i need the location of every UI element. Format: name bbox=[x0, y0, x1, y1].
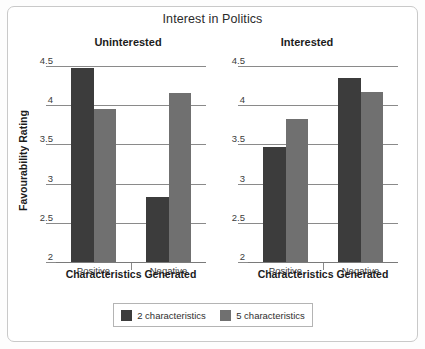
y-tick-label: 2 bbox=[240, 251, 245, 262]
gridline bbox=[248, 66, 398, 67]
y-tick-label: 4 bbox=[48, 94, 53, 105]
y-tick-label: 4.5 bbox=[40, 55, 53, 66]
y-tick-mark bbox=[238, 144, 248, 145]
panel-interested: Interested 22.533.544.5PositiveNegative … bbox=[212, 36, 402, 294]
panel-title: Uninterested bbox=[20, 36, 210, 48]
y-tick-label: 4.5 bbox=[232, 55, 245, 66]
panel-uninterested: Uninterested 22.533.544.5PositiveNegativ… bbox=[20, 36, 210, 294]
gridline bbox=[56, 66, 206, 67]
legend-swatch bbox=[220, 310, 231, 321]
x-axis-title: Characteristics Generated bbox=[248, 268, 398, 280]
legend-item[interactable]: 2 characteristics bbox=[121, 310, 206, 321]
chart-title: Interest in Politics bbox=[0, 12, 425, 26]
y-tick-label: 3.5 bbox=[40, 133, 53, 144]
bar bbox=[169, 93, 192, 262]
bar bbox=[71, 68, 94, 262]
x-axis-title: Characteristics Generated bbox=[56, 268, 206, 280]
chart-figure: Interest in Politics Favourability Ratin… bbox=[0, 0, 425, 349]
y-tick-mark bbox=[46, 223, 56, 224]
legend-item[interactable]: 5 characteristics bbox=[220, 310, 305, 321]
y-tick-label: 3 bbox=[240, 173, 245, 184]
legend-swatch bbox=[121, 310, 132, 321]
y-tick-mark bbox=[238, 262, 248, 263]
bar bbox=[361, 92, 384, 262]
y-tick-mark bbox=[46, 66, 56, 67]
panel-title: Interested bbox=[212, 36, 402, 48]
y-tick-mark bbox=[46, 105, 56, 106]
y-tick-mark bbox=[46, 184, 56, 185]
legend-label: 5 characteristics bbox=[236, 310, 305, 321]
y-tick-mark bbox=[46, 262, 56, 263]
y-tick-label: 3.5 bbox=[232, 133, 245, 144]
y-tick-label: 2.5 bbox=[40, 212, 53, 223]
bar bbox=[146, 197, 169, 262]
bar bbox=[338, 78, 361, 262]
y-tick-mark bbox=[238, 223, 248, 224]
plot-area: 22.533.544.5PositiveNegative bbox=[248, 66, 398, 262]
y-tick-label: 3 bbox=[48, 173, 53, 184]
y-tick-mark bbox=[238, 105, 248, 106]
plot-area: 22.533.544.5PositiveNegative bbox=[56, 66, 206, 262]
y-tick-label: 4 bbox=[240, 94, 245, 105]
y-tick-mark bbox=[238, 184, 248, 185]
bar bbox=[94, 109, 117, 262]
y-tick-mark bbox=[46, 144, 56, 145]
y-tick-label: 2.5 bbox=[232, 212, 245, 223]
y-tick-mark bbox=[238, 66, 248, 67]
chart-legend: 2 characteristics5 characteristics bbox=[113, 303, 313, 327]
y-tick-label: 2 bbox=[48, 251, 53, 262]
bar bbox=[263, 147, 286, 262]
legend-label: 2 characteristics bbox=[137, 310, 206, 321]
bar bbox=[286, 119, 309, 262]
